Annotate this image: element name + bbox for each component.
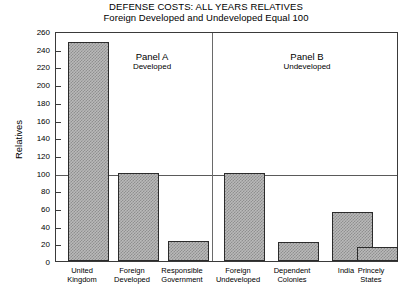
y-tick-label-180: 180 — [4, 99, 50, 108]
panel-a-description: Developed — [102, 62, 202, 72]
plot-inner: Panel A Developed Panel B Undeveloped — [56, 33, 397, 261]
x-label-line-1: Princely — [336, 266, 406, 275]
panel-a-note: Panel A Developed — [102, 51, 202, 72]
chart-figure: DEFENSE COSTS: ALL YEARS RELATIVES Forei… — [0, 0, 412, 298]
y-tick-label-60: 60 — [4, 205, 50, 214]
y-tick-label-160: 160 — [4, 117, 50, 126]
y-tick-label-80: 80 — [4, 187, 50, 196]
y-tick-240 — [56, 51, 61, 52]
panel-b-note: Panel B Undeveloped — [252, 51, 362, 72]
chart-title-block: DEFENSE COSTS: ALL YEARS RELATIVES Forei… — [0, 2, 412, 23]
y-tick-label-0: 0 — [4, 258, 50, 267]
bar-united-kingdom — [68, 42, 109, 261]
panel-a-title: Panel A — [102, 51, 202, 62]
y-tick-label-260: 260 — [4, 28, 50, 37]
chart-subtitle: Foreign Developed and Undeveloped Equal … — [0, 13, 412, 24]
panel-b-title: Panel B — [252, 51, 362, 62]
y-tick-120 — [56, 157, 61, 158]
bar-dependent-colonies — [278, 242, 319, 261]
y-tick-140 — [56, 139, 61, 140]
bar-foreign-developed — [118, 173, 159, 262]
y-tick-160 — [56, 122, 61, 123]
y-tick-label-200: 200 — [4, 81, 50, 90]
y-tick-label-20: 20 — [4, 240, 50, 249]
y-tick-label-140: 140 — [4, 134, 50, 143]
x-label-line-2: States — [336, 275, 406, 284]
y-tick-200 — [56, 86, 61, 87]
bar-responsible-government — [168, 241, 209, 261]
y-tick-80 — [56, 192, 61, 193]
bar-foreign-undeveloped — [224, 173, 265, 262]
y-tick-60 — [56, 210, 61, 211]
y-tick-20 — [56, 245, 61, 246]
y-tick-220 — [56, 68, 61, 69]
panel-divider — [212, 33, 213, 261]
y-tick-label-220: 220 — [4, 63, 50, 72]
y-tick-180 — [56, 104, 61, 105]
y-tick-label-120: 120 — [4, 152, 50, 161]
plot-area: Panel A Developed Panel B Undeveloped — [55, 32, 398, 262]
y-tick-label-240: 240 — [4, 46, 50, 55]
bar-princely-states — [357, 247, 398, 261]
y-tick-label-100: 100 — [4, 170, 50, 179]
x-label-princely-states: Princely States — [336, 266, 406, 285]
panel-b-description: Undeveloped — [252, 62, 362, 72]
y-tick-label-40: 40 — [4, 223, 50, 232]
y-tick-40 — [56, 228, 61, 229]
x-label-line-2: Colonies — [257, 275, 327, 284]
